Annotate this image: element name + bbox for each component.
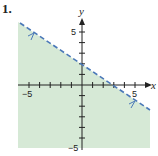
x-tick-label-neg5: −5: [22, 89, 32, 99]
x-axis-label: x: [150, 79, 156, 91]
y-tick-label-neg5: −5: [68, 143, 78, 153]
y-axis-label: y: [78, 5, 84, 17]
inequality-graph: x y −5 5 5 −5: [0, 0, 158, 156]
x-tick-label-5: 5: [132, 89, 137, 99]
y-tick-label-5: 5: [71, 27, 76, 37]
y-axis-arrow-icon: [79, 18, 85, 25]
